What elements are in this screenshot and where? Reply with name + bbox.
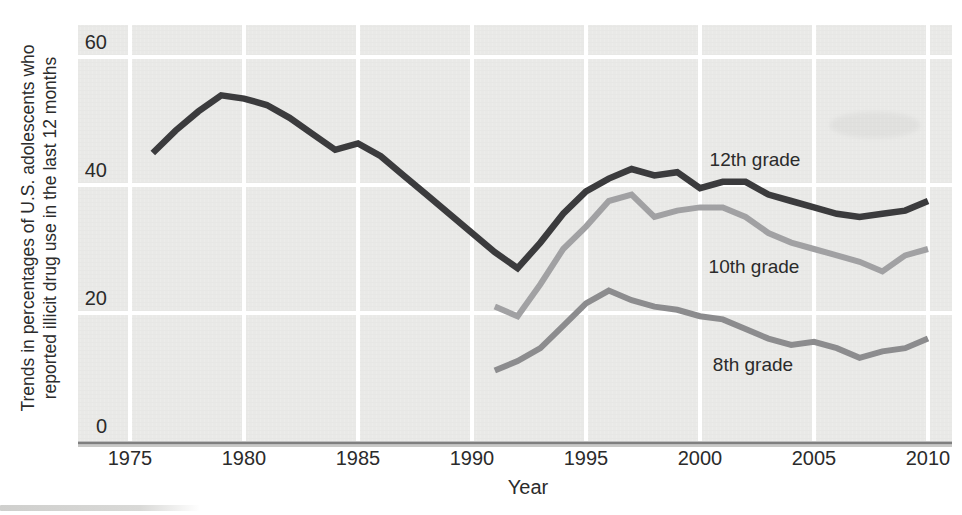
y-axis-label: Trends in percentages of U.S. adolescent… (17, 8, 63, 448)
x-tick-label: 1995 (564, 447, 609, 469)
y-axis-label-line1: Trends in percentages of U.S. adolescent… (17, 8, 39, 448)
x-tick-label: 2005 (792, 447, 837, 469)
y-tick-label: 0 (96, 415, 107, 437)
series-label-8th-grade: 8th grade (713, 354, 793, 375)
x-tick-label: 1975 (108, 447, 153, 469)
series-label-10th-grade: 10th grade (709, 256, 800, 277)
trend-line-chart: 020406019751980198519901995200020052010 … (0, 0, 962, 515)
x-tick-label: 2010 (906, 447, 951, 469)
x-tick-label: 1980 (222, 447, 267, 469)
y-tick-label: 20 (85, 287, 107, 309)
scan-artifact-bar (0, 505, 200, 511)
x-tick-label: 2000 (678, 447, 723, 469)
y-tick-label: 40 (85, 159, 107, 181)
series-label-12th-grade: 12th grade (710, 149, 801, 170)
plot-area (78, 25, 952, 441)
y-axis-label-line2: reported illicit drug use in the last 12… (39, 8, 61, 448)
y-tick-label: 60 (85, 31, 107, 53)
scan-smudge (830, 112, 920, 138)
x-axis-title: Year (508, 476, 549, 498)
x-tick-label: 1985 (336, 447, 381, 469)
x-tick-label: 1990 (450, 447, 495, 469)
